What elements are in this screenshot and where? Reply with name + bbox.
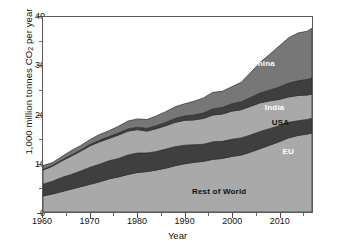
series-label-china: China [252, 58, 275, 67]
series-label-india: India [265, 103, 285, 112]
y-axis-label-subscript: 2 [27, 47, 34, 51]
x-tick-mark-1970 [90, 213, 91, 218]
plot-area [42, 16, 313, 213]
x-tick-mark-1980 [137, 213, 138, 218]
x-tick-mark-1960 [42, 213, 43, 218]
series-label-eu: EU [282, 147, 294, 156]
x-tick-mark-1990 [185, 213, 186, 218]
x-minor-tick-2015 [303, 213, 304, 216]
x-minor-tick-1985 [161, 213, 162, 216]
x-axis-label: Year [42, 230, 313, 241]
series-label-usa: USA [272, 117, 290, 126]
x-minor-tick-1995 [208, 213, 209, 216]
x-tick-mark-2010 [280, 213, 281, 218]
stacked-area-svg [43, 17, 312, 212]
x-tick-mark-2000 [232, 213, 233, 218]
series-label-rest-of-world: Rest of World [192, 186, 246, 195]
chart-figure: 1,000 million tonnes CO2 per year 010203… [0, 0, 340, 251]
x-minor-tick-2005 [256, 213, 257, 216]
y-axis-label: 1,000 million tonnes CO2 per year [23, 0, 34, 182]
x-minor-tick-1965 [66, 213, 67, 216]
x-minor-tick-1975 [113, 213, 114, 216]
